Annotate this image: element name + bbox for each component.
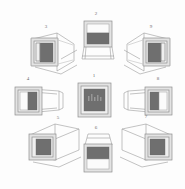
box-edge-lines-3 (58, 40, 73, 64)
box-white-panel-8 (159, 92, 167, 110)
box-view-3: 3 (27, 31, 79, 75)
box-interior-shade-4 (28, 92, 37, 110)
box-view-1-drawing (76, 80, 114, 120)
box-view-4-drawing (13, 83, 65, 119)
box-view-5: 5 (27, 122, 81, 168)
box-view-2-label: 2 (91, 11, 101, 16)
box-view-2: 2 (80, 18, 116, 62)
box-interior-shade-8 (150, 92, 159, 110)
box-interior-shade-7 (150, 139, 165, 155)
box-view-7: 7 (120, 122, 174, 168)
box-view-5-drawing (27, 122, 81, 168)
box-view-3-label: 3 (41, 24, 51, 29)
box-white-panel-4 (20, 92, 28, 110)
box-interior-shade-2 (87, 33, 109, 44)
box-view-4-label: 4 (23, 76, 33, 81)
box-views-figure: 3 2 (0, 0, 185, 189)
box-view-8-label: 8 (153, 76, 163, 81)
box-edge-lines-9 (128, 40, 143, 64)
box-view-7-drawing (120, 122, 174, 168)
receding-lines-6 (85, 134, 112, 145)
box-bottom-panel-6 (87, 159, 109, 169)
box-view-4: 4 (13, 83, 65, 119)
box-view-2-drawing (80, 18, 116, 62)
box-interior-shade-6 (87, 147, 109, 159)
box-view-9-label: 9 (146, 24, 156, 29)
box-view-6-label: 6 (91, 125, 101, 130)
box-view-9: 9 (122, 31, 174, 75)
box-view-6-drawing (80, 132, 116, 176)
box-interior-shade-5 (36, 139, 51, 155)
box-view-7-label: 7 (141, 114, 151, 119)
box-top-panel-2 (87, 24, 109, 33)
box-view-6: 6 (80, 132, 116, 176)
box-interior-shade-3 (40, 43, 53, 62)
box-view-3-drawing (27, 31, 79, 75)
box-view-1-label: 1 (89, 73, 99, 78)
receding-lines-2 (82, 47, 114, 59)
box-view-9-drawing (122, 31, 174, 75)
box-view-1: 1 (76, 80, 114, 120)
box-view-5-label: 5 (53, 115, 63, 120)
box-interior-shade-9 (148, 43, 161, 62)
